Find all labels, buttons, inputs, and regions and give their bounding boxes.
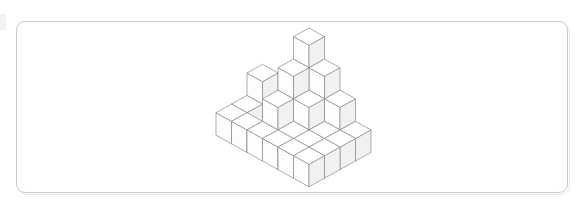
figure-frame (16, 21, 568, 193)
cube (294, 147, 325, 187)
page-root: Isometric cube stack figure A stack of i… (0, 0, 585, 210)
left-edge-artifact (0, 14, 6, 30)
isometric-cube-stack (17, 22, 569, 194)
